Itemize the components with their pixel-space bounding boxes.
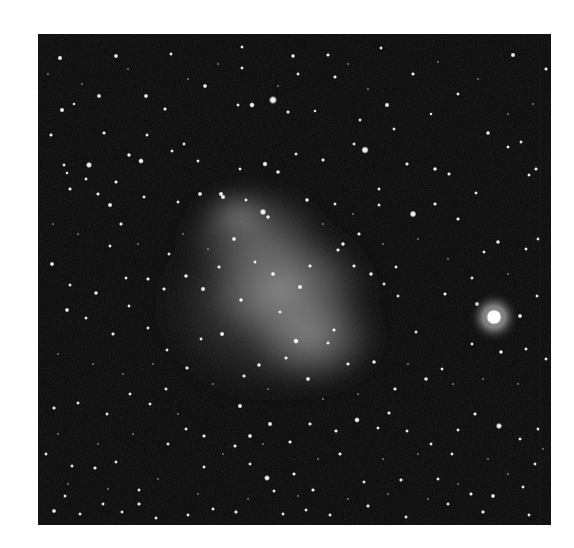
faint-star [482, 378, 484, 380]
star [78, 512, 82, 516]
star [533, 462, 537, 466]
star [105, 412, 109, 416]
faint-star [417, 238, 419, 240]
star [219, 331, 224, 336]
star [114, 180, 118, 184]
star [332, 328, 336, 332]
star [357, 232, 361, 236]
star [50, 262, 55, 267]
faint-star [152, 363, 154, 365]
star [450, 452, 454, 456]
star [338, 452, 342, 456]
star [114, 460, 118, 464]
faint-star [177, 413, 179, 415]
star [536, 427, 540, 431]
faint-star [222, 453, 224, 455]
faint-star [347, 498, 349, 500]
star [162, 287, 166, 291]
star [232, 237, 237, 242]
star [176, 200, 180, 204]
star [377, 187, 381, 191]
star [146, 277, 150, 281]
star [264, 475, 270, 481]
star [62, 163, 66, 167]
star [267, 421, 272, 426]
star [52, 406, 56, 410]
star [334, 429, 338, 433]
star [433, 167, 437, 171]
star [96, 192, 100, 196]
faint-star [452, 383, 454, 385]
faint-star [137, 243, 139, 245]
faint-star [207, 248, 209, 250]
faint-star [427, 498, 429, 500]
star [308, 422, 312, 426]
faint-star [317, 458, 319, 460]
star [409, 210, 416, 217]
star [199, 337, 203, 341]
star [72, 102, 76, 106]
faint-star [57, 353, 59, 355]
star [65, 171, 69, 175]
star [238, 167, 242, 171]
star [433, 202, 437, 206]
star [524, 347, 528, 351]
star [392, 127, 396, 131]
nebula-region [198, 189, 278, 239]
star [535, 294, 539, 298]
star [202, 465, 206, 469]
star [362, 480, 366, 484]
faint-star [47, 73, 49, 75]
star [63, 494, 67, 498]
star [185, 366, 189, 370]
faint-star [97, 443, 99, 445]
faint-star [127, 68, 129, 70]
star [127, 304, 131, 308]
star [326, 53, 330, 57]
star [57, 55, 62, 60]
star [107, 202, 112, 207]
faint-star [532, 103, 534, 105]
star [456, 92, 460, 96]
faint-star [437, 61, 439, 63]
star [470, 276, 474, 280]
star [527, 173, 531, 177]
star [393, 387, 397, 391]
faint-star [487, 458, 489, 460]
star [164, 387, 168, 391]
star [184, 427, 188, 431]
star [237, 403, 242, 408]
star [257, 363, 261, 367]
star [308, 264, 312, 268]
star [333, 75, 337, 79]
star [534, 167, 538, 171]
star [352, 142, 356, 146]
star [84, 316, 88, 320]
star [304, 508, 308, 512]
star [376, 426, 380, 430]
star [486, 131, 490, 135]
faint-star [517, 383, 519, 385]
star [510, 52, 515, 57]
star [93, 466, 97, 470]
faint-star [387, 493, 389, 495]
star [84, 177, 88, 181]
star [124, 276, 128, 280]
star [144, 94, 149, 99]
star [163, 107, 167, 111]
faint-star [507, 273, 509, 275]
star [341, 242, 345, 246]
faint-star [182, 233, 184, 235]
star [404, 515, 408, 519]
star [242, 374, 246, 378]
star [321, 158, 325, 162]
star [239, 298, 243, 302]
star [296, 72, 300, 76]
star [76, 401, 80, 405]
star [469, 492, 473, 496]
faint-star [357, 393, 359, 395]
faint-star [57, 433, 59, 435]
star [470, 342, 474, 346]
star [97, 94, 102, 99]
star [170, 149, 174, 153]
